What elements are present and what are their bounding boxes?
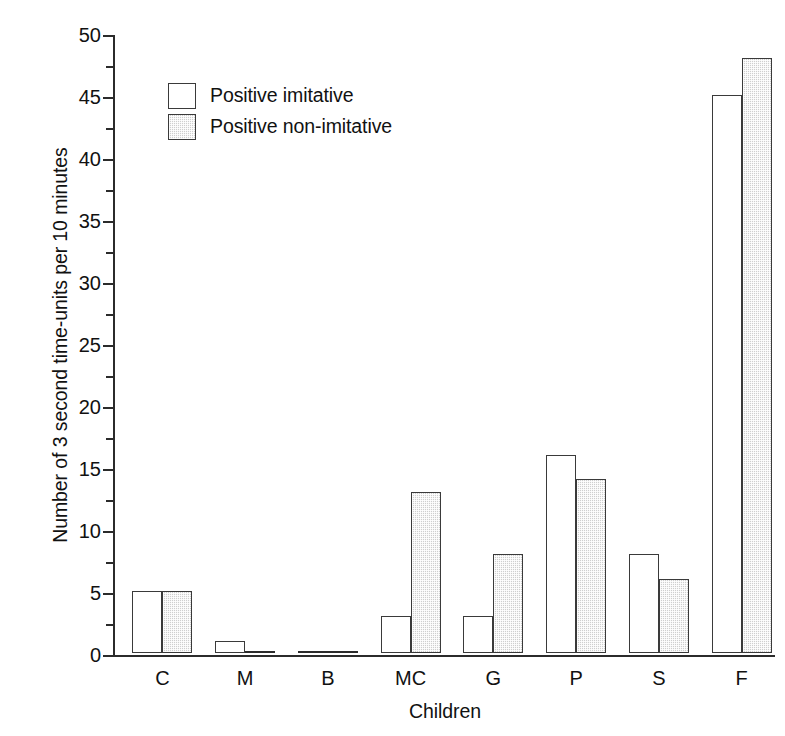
x-tick-label-c: C — [122, 667, 202, 689]
x-tick-label-f: F — [702, 667, 782, 689]
x-tick-label-p: P — [536, 667, 616, 689]
y-tick-label: 35 — [55, 211, 101, 231]
y-tick-minor — [106, 252, 113, 254]
y-tick-label: 30 — [55, 273, 101, 293]
y-axis-tick-labels: 05101520253035404550 — [55, 35, 101, 656]
y-tick-major — [103, 531, 113, 533]
x-tick-label-m: M — [205, 667, 285, 689]
legend-swatch-open — [168, 83, 196, 109]
bar-f-non-imitative — [742, 58, 772, 653]
y-tick-major — [103, 655, 113, 657]
bar-f-imitative — [712, 95, 742, 653]
y-tick-label: 20 — [55, 397, 101, 417]
x-axis-line — [113, 655, 775, 657]
bar-g-imitative — [463, 616, 493, 653]
legend-swatch-filled — [168, 114, 196, 140]
bar-c-non-imitative — [162, 591, 192, 653]
bar-m-non-imitative — [245, 651, 275, 653]
bar-mc-imitative — [381, 616, 411, 653]
y-axis-line — [113, 35, 115, 656]
x-tick-label-b: B — [288, 667, 368, 689]
y-tick-major — [103, 407, 113, 409]
y-tick-label: 50 — [55, 25, 101, 45]
y-tick-minor — [106, 128, 113, 130]
y-tick-minor — [106, 624, 113, 626]
bar-s-imitative — [629, 554, 659, 653]
bar-group — [629, 33, 689, 653]
bar-mc-non-imitative — [411, 492, 441, 653]
x-tick-label-s: S — [619, 667, 699, 689]
y-tick-major — [103, 593, 113, 595]
bar-c-imitative — [132, 591, 162, 653]
bar-s-non-imitative — [659, 579, 689, 653]
chart-legend: Positive imitativePositive non-imitative — [168, 80, 498, 142]
y-tick-major — [103, 469, 113, 471]
y-tick-minor — [106, 66, 113, 68]
bar-group — [712, 33, 772, 653]
y-tick-major — [103, 283, 113, 285]
y-tick-minor — [106, 500, 113, 502]
y-tick-label: 25 — [55, 335, 101, 355]
y-tick-major — [103, 35, 113, 37]
y-tick-minor — [106, 314, 113, 316]
x-tick-label-mc: MC — [371, 667, 451, 689]
y-tick-major — [103, 221, 113, 223]
legend-label: Positive imitative — [210, 84, 353, 107]
legend-item: Positive non-imitative — [168, 111, 498, 142]
y-tick-label: 45 — [55, 87, 101, 107]
y-tick-label: 5 — [55, 583, 101, 603]
bar-b-non-imitative — [328, 651, 358, 653]
x-tick-label-g: G — [453, 667, 533, 689]
y-tick-label: 0 — [55, 645, 101, 665]
legend-label: Positive non-imitative — [210, 115, 392, 138]
bar-p-imitative — [546, 455, 576, 653]
y-tick-label: 40 — [55, 149, 101, 169]
bar-chart: Number of 3 second time-units per 10 min… — [0, 0, 785, 736]
legend-item: Positive imitative — [168, 80, 498, 111]
bar-g-non-imitative — [493, 554, 523, 653]
y-tick-major — [103, 345, 113, 347]
y-tick-minor — [106, 438, 113, 440]
y-tick-label: 10 — [55, 521, 101, 541]
bar-b-imitative — [298, 651, 328, 653]
y-tick-minor — [106, 376, 113, 378]
y-tick-minor — [106, 562, 113, 564]
y-tick-major — [103, 159, 113, 161]
bar-m-imitative — [215, 641, 245, 653]
x-axis-title: Children — [110, 700, 780, 723]
y-tick-minor — [106, 190, 113, 192]
y-tick-label: 15 — [55, 459, 101, 479]
bar-p-non-imitative — [576, 479, 606, 653]
bar-group — [546, 33, 606, 653]
y-tick-major — [103, 97, 113, 99]
